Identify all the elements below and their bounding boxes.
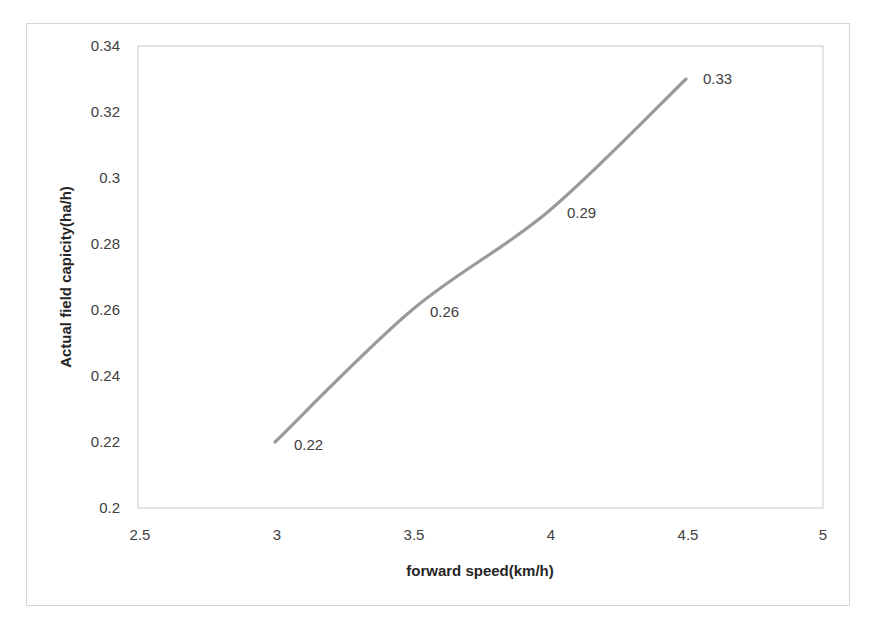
y-tick: 0.28 — [91, 235, 120, 252]
y-tick: 0.3 — [99, 169, 120, 186]
data-label: 0.33 — [703, 70, 732, 87]
x-tick: 4 — [547, 526, 555, 543]
chart-svg: 0.2 0.22 0.24 0.26 0.28 0.3 0.32 0.34 2.… — [0, 0, 869, 626]
data-label: 0.22 — [294, 436, 323, 453]
series-line — [275, 79, 686, 442]
data-labels: 0.22 0.26 0.29 0.33 — [294, 70, 732, 453]
y-tick: 0.26 — [91, 301, 120, 318]
y-tick: 0.2 — [99, 499, 120, 516]
x-tick: 3 — [273, 526, 281, 543]
y-tick: 0.22 — [91, 433, 120, 450]
x-tick: 3.5 — [404, 526, 425, 543]
y-tick: 0.32 — [91, 103, 120, 120]
y-tick: 0.34 — [91, 37, 120, 54]
x-tick: 2.5 — [130, 526, 151, 543]
x-axis-ticks: 2.5 3 3.5 4 4.5 5 — [130, 526, 828, 543]
x-tick: 4.5 — [678, 526, 699, 543]
y-axis-ticks: 0.2 0.22 0.24 0.26 0.28 0.3 0.32 0.34 — [91, 37, 120, 516]
x-tick: 5 — [819, 526, 827, 543]
data-label: 0.26 — [430, 303, 459, 320]
y-tick: 0.24 — [91, 367, 120, 384]
plot-area — [138, 46, 823, 508]
y-axis-title: Actual field capicity(ha/h) — [57, 186, 74, 368]
x-axis-title: forward speed(km/h) — [406, 562, 554, 579]
data-label: 0.29 — [567, 204, 596, 221]
